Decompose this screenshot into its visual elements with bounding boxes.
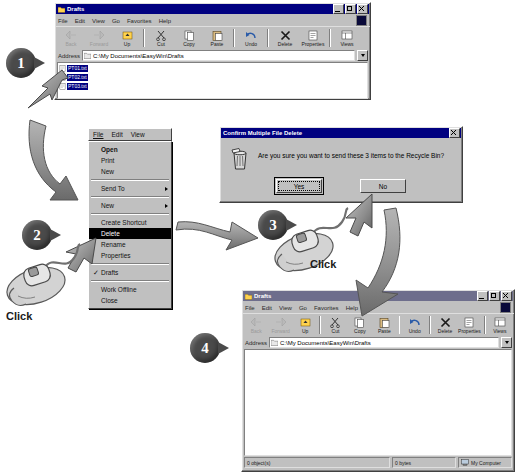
toolbar-delete-label: Delete	[278, 41, 292, 47]
menu-view[interactable]: View	[279, 304, 292, 312]
close-button[interactable]	[357, 4, 368, 14]
mouse-cable-step2	[44, 244, 80, 268]
menu-edit[interactable]: Edit	[75, 17, 85, 25]
toolbar-up-button[interactable]: Up	[113, 28, 141, 47]
menu-item-send-to[interactable]: Send To	[89, 183, 171, 194]
toolbar-back-button[interactable]: Back	[244, 315, 268, 334]
confirm-delete-dialog[interactable]: Confirm Multiple File Delete Are you sur…	[219, 126, 463, 203]
file-menu-group[interactable]: File Edit View Open Print New Send To Ne…	[88, 128, 172, 309]
address-value: C:\My Documents\EasyWin\Drafts	[280, 339, 371, 347]
toolbar-undo-button[interactable]: Undo	[237, 28, 265, 47]
no-button[interactable]: No	[360, 179, 406, 193]
click-label-left: Click	[6, 310, 32, 322]
toolbar-copy-button[interactable]: Copy	[348, 315, 372, 334]
menu-file[interactable]: File	[93, 131, 103, 138]
menu-edit[interactable]: Edit	[111, 131, 122, 138]
menu-item-new-submenu-label: New	[101, 201, 114, 211]
explorer-window-bottom[interactable]: Drafts File Edit View Go Favorites Help …	[241, 289, 515, 472]
minimize-button[interactable]	[333, 4, 344, 14]
menu-edit[interactable]: Edit	[262, 304, 272, 312]
menu-view[interactable]: View	[131, 131, 145, 138]
address-bar-top[interactable]: Address C:\My Documents\EasyWin\Drafts	[55, 50, 370, 62]
toolbar-views-button[interactable]: Views	[488, 315, 512, 334]
list-item[interactable]: PT01.txt	[59, 64, 95, 72]
menu-separator	[91, 263, 169, 265]
toolbar-undo-button[interactable]: Undo	[402, 315, 426, 334]
dialog-buttons[interactable]: Yes No	[220, 175, 462, 193]
minimize-button[interactable]	[477, 291, 488, 301]
toolbar-paste-button[interactable]: Paste	[203, 28, 231, 47]
windows-logo-icon	[356, 15, 367, 26]
menu-item-send-to-label: Send To	[101, 184, 125, 194]
menu-item-drafts[interactable]: ✓ Drafts	[89, 267, 171, 278]
menu-item-new-submenu[interactable]: New	[89, 200, 171, 211]
toolbar-paste-button[interactable]: Paste	[372, 315, 396, 334]
menu-go[interactable]: Go	[112, 17, 120, 25]
menu-view[interactable]: View	[92, 17, 105, 25]
toolbar-properties-button[interactable]: Properties	[457, 315, 481, 334]
address-input[interactable]: C:\My Documents\EasyWin\Drafts	[269, 337, 499, 348]
toolbar-cut-button[interactable]: Cut	[147, 28, 175, 47]
list-item[interactable]: PT03.txt	[59, 82, 95, 90]
toolbar-top[interactable]: Back Forward Up Cut	[55, 26, 370, 50]
file-list-bottom[interactable]	[244, 349, 512, 456]
dialog-close-button[interactable]	[449, 128, 460, 138]
menubar-bottom[interactable]: File Edit View Go Favorites Help	[242, 302, 514, 313]
menu-item-open[interactable]: Open	[89, 144, 171, 155]
toolbar-delete-button[interactable]: Delete	[433, 315, 457, 334]
list-item[interactable]: PT02.txt	[59, 73, 95, 81]
maximize-button[interactable]	[345, 4, 356, 14]
toolbar-up-button[interactable]: Up	[293, 315, 317, 334]
menu-file[interactable]: File	[245, 304, 255, 312]
menubar-context[interactable]: File Edit View	[88, 128, 172, 141]
toolbar-cut-button[interactable]: Cut	[323, 315, 347, 334]
status-zone-label: My Computer	[471, 459, 501, 467]
toolbar-forward-button[interactable]: Forward	[85, 28, 113, 47]
toolbar-back-button[interactable]: Back	[57, 28, 85, 47]
address-dropdown-button[interactable]	[357, 50, 368, 61]
window-buttons[interactable]	[333, 4, 368, 14]
clipboard-icon	[212, 29, 223, 41]
menu-item-create-shortcut[interactable]: Create Shortcut	[89, 217, 171, 228]
toolbar-properties-label: Properties	[458, 328, 481, 334]
menu-help[interactable]: Help	[159, 17, 171, 25]
explorer-window-top[interactable]: Drafts File Edit View Go Favorites Help …	[54, 2, 371, 100]
address-input[interactable]: C:\My Documents\EasyWin\Drafts	[82, 50, 355, 61]
yes-button[interactable]: Yes	[276, 179, 322, 193]
menu-item-properties[interactable]: Properties	[89, 250, 171, 261]
maximize-button[interactable]	[489, 291, 500, 301]
chevron-down-icon	[505, 341, 509, 344]
menu-item-print[interactable]: Print	[89, 155, 171, 166]
toolbar-properties-button[interactable]: Properties	[299, 28, 327, 47]
menubar-top[interactable]: File Edit View Go Favorites Help	[55, 15, 370, 26]
dialog-titlebar[interactable]: Confirm Multiple File Delete	[221, 128, 461, 138]
toolbar-forward-button[interactable]: Forward	[268, 315, 292, 334]
toolbar-delete-button[interactable]: Delete	[271, 28, 299, 47]
toolbar-views-button[interactable]: Views	[333, 28, 361, 47]
menu-item-new[interactable]: New	[89, 166, 171, 177]
close-button[interactable]	[501, 291, 512, 301]
menu-item-work-offline[interactable]: Work Offline	[89, 284, 171, 295]
menu-go[interactable]: Go	[299, 304, 307, 312]
toolbar-bottom[interactable]: Back Forward Up Cut	[242, 313, 514, 337]
titlebar-bottom[interactable]: Drafts	[243, 291, 513, 301]
toolbar-copy-button[interactable]: Copy	[175, 28, 203, 47]
menu-file[interactable]: File	[58, 17, 68, 25]
titlebar-top[interactable]: Drafts	[56, 4, 369, 14]
file-list-top[interactable]: PT01.txt PT02.txt PT03.txt	[57, 62, 368, 99]
address-bar-bottom[interactable]: Address C:\My Documents\EasyWin\Drafts	[242, 337, 514, 349]
menu-favorites[interactable]: Favorites	[314, 304, 339, 312]
menu-favorites[interactable]: Favorites	[127, 17, 152, 25]
menu-item-close[interactable]: Close	[89, 295, 171, 306]
file-dropdown-menu[interactable]: Open Print New Send To New Create Shortc…	[88, 141, 172, 309]
dialog-window-buttons[interactable]	[449, 128, 460, 138]
folder-icon	[58, 6, 65, 13]
address-dropdown-button[interactable]	[501, 337, 512, 348]
menu-item-delete[interactable]: Delete	[89, 228, 171, 239]
toolbar-separator-4	[329, 29, 331, 47]
menu-item-rename[interactable]: Rename	[89, 239, 171, 250]
window-buttons[interactable]	[477, 291, 512, 301]
menu-help[interactable]: Help	[346, 304, 358, 312]
folder-small-icon	[271, 339, 278, 346]
undo-arrow-icon	[409, 316, 421, 328]
